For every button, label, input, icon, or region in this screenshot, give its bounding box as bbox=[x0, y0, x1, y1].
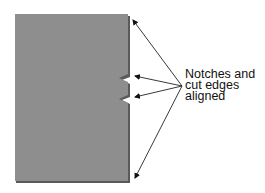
arrow-bottom-corner bbox=[135, 86, 182, 178]
label-line-3: aligned bbox=[185, 91, 255, 102]
callout-label: Notches and cut edges aligned bbox=[185, 69, 255, 102]
arrow-top-corner bbox=[133, 20, 182, 86]
callout-arrows bbox=[133, 20, 182, 178]
top-fabric-layer bbox=[15, 14, 128, 181]
arrow-upper-notch bbox=[135, 76, 182, 86]
arrow-lower-notch bbox=[135, 86, 182, 97]
